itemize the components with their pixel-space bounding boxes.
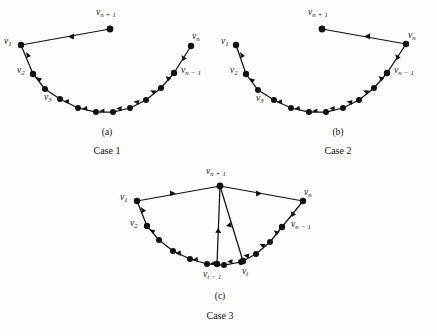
panel-b-label-v2: v2: [230, 66, 238, 76]
panel-a-label-v1: v1: [4, 37, 12, 47]
panel-c-edge-vnp1-vn-arrow: [256, 191, 262, 197]
panel-b-label-vn: vn: [408, 31, 416, 41]
panel-c-label-vn: vn: [304, 188, 312, 198]
panel-a-label-v2: v2: [17, 66, 25, 76]
panel-c-edge-vi-vnp1: [220, 186, 243, 261]
panel-c-edge-v1-vnp1-arrow: [170, 190, 176, 196]
panel-c-label-vn+1: vn + 1: [206, 167, 226, 177]
panel-b-edge-arrow: [364, 33, 370, 39]
panel-c-label-v2: v2: [130, 219, 138, 229]
panel-a-label-vn: vn: [192, 32, 200, 42]
panel-c-edge-vim1-vnp1: [217, 186, 220, 264]
panel-a-arc-arrows: [26, 52, 187, 113]
panel-c-graph: [134, 183, 306, 268]
panel-a-caption: (a): [87, 128, 127, 138]
panel-c-label-vi: vi: [242, 267, 248, 277]
panel-c-edge-vim1-vnp1-arrow: [215, 228, 221, 233]
panel-c-label-v1: v1: [120, 193, 128, 203]
panel-a-label-v3: v3: [44, 93, 52, 103]
panel-a-label-vn+1: vn + 1: [96, 8, 116, 18]
panel-b-case-caption: Case 2: [315, 146, 361, 156]
panel-b-label-v3: v3: [256, 94, 264, 104]
panel-a-label-vn-1: vn − 1: [181, 66, 201, 76]
panel-a-case-caption: Case 1: [84, 146, 130, 156]
panel-a-edge-vnp1-v1: [21, 29, 110, 45]
panel-c-label-vn-1: vn − 1: [291, 220, 311, 230]
panel-c-label-vi-1: vi − 1: [203, 270, 222, 280]
figure-root: v1 v2 v3 vn − 1 vn vn + 1 (a) Case 1 v1 …: [0, 0, 437, 336]
panel-c-caption: (c): [200, 292, 240, 302]
panel-b-caption: (b): [318, 128, 358, 138]
panel-a-edge-arrow: [68, 34, 74, 40]
panel-b-label-v1: v1: [221, 37, 229, 47]
panel-b-label-vn+1: vn + 1: [308, 8, 328, 18]
panel-b-label-vn-1: vn − 1: [394, 66, 414, 76]
panel-c-case-caption: Case 3: [197, 311, 243, 321]
panel-b-arc-arrows: [240, 52, 401, 113]
panel-c-edge-v1-vnp1: [137, 186, 220, 201]
